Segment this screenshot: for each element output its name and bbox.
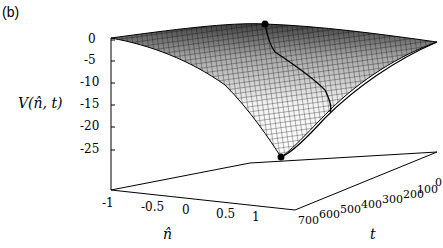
x-tick-label: 0: [182, 203, 190, 217]
base-plane: [111, 152, 437, 190]
z-axis-label: V(n̂, t): [18, 95, 63, 111]
y-tick-label: 400: [361, 198, 382, 211]
minimum-marker: [278, 154, 285, 161]
z-tick-label: -10: [80, 75, 99, 89]
y-tick-label: 500: [340, 203, 361, 216]
potential-surface: [111, 24, 437, 157]
y-tick-label: 0: [435, 176, 442, 189]
z-tick-label: 0: [88, 32, 96, 46]
x-tick-label: -0.5: [141, 200, 164, 214]
y-axis-label: t: [370, 226, 376, 242]
x-tick-label: 1: [252, 210, 260, 224]
z-tick-label: -5: [84, 53, 96, 67]
x-axis-label: n̂: [163, 226, 172, 242]
x-tick-label: 0.5: [216, 207, 235, 221]
x-tick-label: -1: [102, 196, 114, 210]
z-tick-label: -25: [80, 142, 99, 156]
y-tick-label: 300: [382, 193, 403, 206]
z-tick-label: -15: [80, 97, 99, 111]
y-tick-label: 600: [319, 208, 340, 221]
y-tick-label: 700: [298, 214, 319, 227]
start-marker: [262, 21, 269, 28]
z-tick-label: -20: [80, 119, 99, 133]
z-axis-ticks: [111, 40, 115, 150]
